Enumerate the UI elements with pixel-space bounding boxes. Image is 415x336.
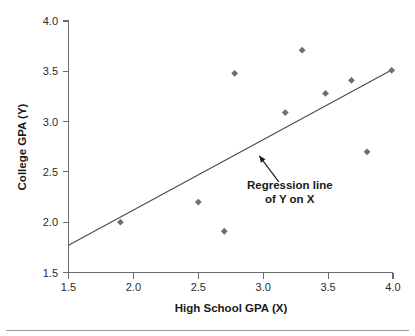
- y-tick-group: 1.52.02.53.03.54.0: [43, 15, 69, 279]
- annotation-line-1: Regression line: [247, 179, 333, 191]
- annotation-group: Regression lineof Y on X: [247, 156, 333, 205]
- data-point-marker: [195, 199, 202, 206]
- data-point-marker: [348, 77, 355, 84]
- y-tick-label: 3.0: [43, 116, 58, 128]
- y-tick-label: 3.5: [43, 65, 58, 77]
- x-tick-label: 3.0: [256, 281, 271, 293]
- data-point-marker: [388, 67, 395, 74]
- x-axis-title: High School GPA (X): [175, 302, 288, 314]
- data-point-marker: [117, 219, 124, 226]
- x-tick-group: 1.52.02.53.03.54.0: [61, 273, 401, 294]
- data-point-marker: [221, 228, 228, 235]
- data-points-group: [117, 47, 395, 235]
- data-point-marker: [231, 70, 238, 77]
- x-tick-label: 2.0: [126, 281, 141, 293]
- annotation-arrow-head: [259, 156, 265, 163]
- y-tick-label: 2.0: [43, 216, 58, 228]
- regression-line: [69, 69, 394, 245]
- x-tick-label: 1.5: [61, 281, 76, 293]
- x-tick-label: 4.0: [385, 281, 400, 293]
- data-point-marker: [299, 47, 306, 54]
- data-point-marker: [364, 148, 371, 155]
- x-tick-label: 2.5: [191, 281, 206, 293]
- y-axis-title: College GPA (Y): [16, 103, 28, 190]
- chart-canvas: College GPA (Y) High School GPA (X) 1.52…: [0, 0, 415, 336]
- annotation-line-2: of Y on X: [265, 193, 315, 205]
- data-point-marker: [282, 109, 289, 116]
- scatter-plot-figure: College GPA (Y) High School GPA (X) 1.52…: [0, 0, 415, 336]
- regression-line-group: [69, 69, 394, 245]
- y-tick-label: 2.5: [43, 166, 58, 178]
- y-tick-label: 4.0: [43, 15, 58, 27]
- y-tick-label: 1.5: [43, 267, 58, 279]
- x-tick-label: 3.5: [320, 281, 335, 293]
- data-point-marker: [322, 90, 329, 97]
